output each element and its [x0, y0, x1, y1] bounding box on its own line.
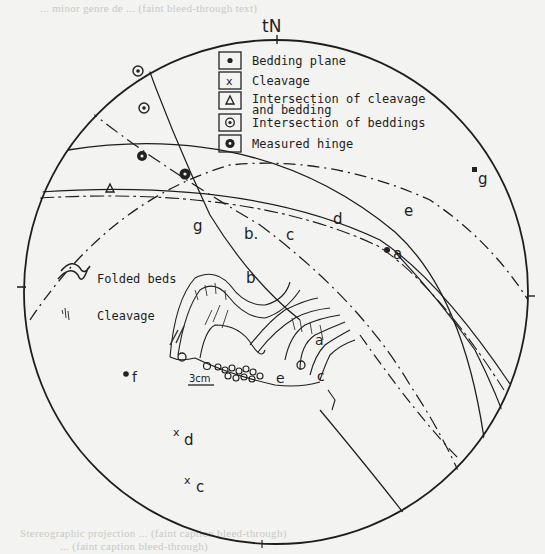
sketch-point-ring — [297, 361, 305, 369]
great-circle-e — [30, 163, 528, 320]
intersection-triangle — [106, 184, 114, 192]
great-circle-c-1 — [40, 189, 510, 384]
legend: Bedding plane x Cleavage Intersection of… — [219, 52, 425, 152]
label-great-circle-b: b. — [244, 225, 258, 243]
label-great-circle-d: d — [333, 210, 343, 228]
label-cleavage-sketch: Cleavage — [97, 309, 155, 323]
legend-label-bedding-plane: Bedding plane — [252, 54, 346, 68]
folded-beds-sketch — [170, 274, 355, 410]
north-label: tN — [262, 16, 281, 36]
hinge-square-g — [472, 167, 477, 172]
cleavage-icon — [62, 308, 69, 320]
cleavage-cross-d: x — [173, 426, 180, 439]
label-cleavage-c: c — [196, 478, 204, 496]
legend-label-intersection-cleavage-2: and bedding — [252, 103, 331, 117]
bedding-point-f — [123, 371, 129, 377]
legend-label-cleavage: Cleavage — [252, 74, 310, 88]
great-circle-a — [395, 252, 520, 470]
sketch-label-e: e — [276, 370, 285, 386]
cleavage-cross-c: x — [184, 474, 191, 487]
filled-ring-center — [229, 142, 232, 145]
label-point-g: g — [478, 170, 488, 188]
stereonet-diagram: tN Bedding plane x Cleavage Intersec — [0, 0, 545, 554]
label-point-f: f — [132, 369, 138, 385]
cross-icon: x — [226, 75, 233, 88]
label-folded-beds: Folded beds — [97, 272, 176, 286]
great-circle-lower — [320, 410, 405, 515]
label-great-circle-g: g — [193, 217, 203, 235]
great-circle-lower-dashdot — [360, 335, 460, 460]
legend-label-measured-hinge: Measured hinge — [252, 137, 353, 151]
sketch-label-c: c — [317, 368, 325, 384]
sketch-label-a: a — [315, 332, 324, 348]
triangle-icon — [226, 96, 234, 104]
label-great-circle-c: c — [286, 226, 294, 244]
label-point-a: a — [393, 245, 402, 263]
bedding-point-a — [384, 247, 390, 253]
measured-hinge-points — [137, 151, 191, 180]
intersection-beddings-points — [133, 66, 149, 113]
ring-dot-center — [228, 121, 231, 124]
scale-label: 3cm — [189, 373, 211, 384]
sketch-legend: Folded beds Cleavage — [58, 264, 176, 323]
great-circle-c-2 — [40, 196, 504, 390]
label-great-circle-e: e — [404, 202, 413, 220]
sketch-label-b: b — [246, 269, 256, 287]
dot-icon — [227, 58, 232, 63]
label-cleavage-d: d — [184, 431, 194, 449]
legend-label-intersection-beddings: Intersection of beddings — [252, 116, 425, 130]
